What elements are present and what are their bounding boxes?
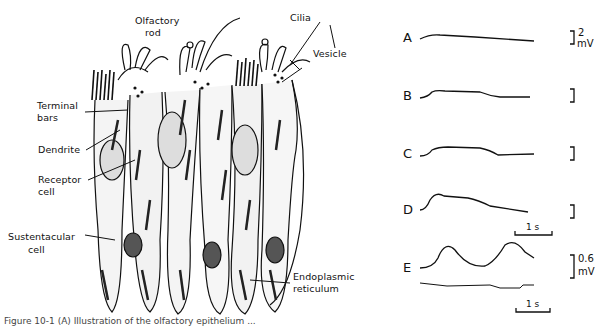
trace-label-a: A <box>403 30 412 45</box>
label-sustentacular-cell-1: Sustentacular <box>8 231 75 242</box>
label-vesicle: Vesicle <box>313 48 347 59</box>
scale-e-unit: mV <box>578 267 595 277</box>
time-bar-e-label: 1 s <box>526 299 539 309</box>
label-dendrite: Dendrite <box>38 144 80 155</box>
scale-a-unit: mV <box>577 39 594 49</box>
time-bar-d-label: 1 s <box>526 222 539 232</box>
trace-label-e: E <box>403 260 411 275</box>
trace-label-c: C <box>403 146 412 161</box>
trace-label-d: D <box>403 202 413 217</box>
label-receptor-cell-2: cell <box>38 186 55 197</box>
traces <box>420 31 574 312</box>
trace-label-b: B <box>403 88 412 103</box>
label-cilia: Cilia <box>290 12 311 23</box>
scale-e-value: 0.6 <box>578 254 594 264</box>
label-olfactory-rod-2: rod <box>145 27 161 38</box>
label-endoplasmic-reticulum-1: Endoplasmic <box>293 271 355 282</box>
figure-caption: Figure 10-1 (A) Illustration of the olfa… <box>4 316 256 326</box>
label-endoplasmic-reticulum-2: reticulum <box>293 283 339 294</box>
label-sustentacular-cell-2: cell <box>28 244 45 255</box>
scale-a-value: 2 <box>578 28 584 38</box>
label-olfactory-rod-1: Olfactory <box>135 15 179 26</box>
label-receptor-cell-1: Receptor <box>38 174 81 185</box>
label-terminal-bars-2: bars <box>37 112 58 123</box>
label-terminal-bars-1: Terminal <box>37 100 78 111</box>
